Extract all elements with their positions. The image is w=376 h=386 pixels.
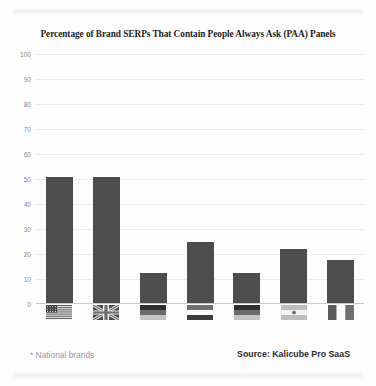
y-axis-tick-label: 20 — [24, 251, 31, 258]
plot-area: 1009080706050403020100 — [36, 54, 364, 304]
bar — [233, 273, 260, 304]
y-axis-tick-label: 0 — [27, 301, 31, 308]
flag-ar-icon — [281, 305, 307, 320]
y-axis-tick-label: 50 — [24, 176, 31, 183]
flag-nl-icon — [187, 305, 213, 320]
flag-de2-icon — [234, 305, 260, 320]
y-axis-tick-label: 30 — [24, 226, 31, 233]
y-axis-tick-label: 90 — [24, 76, 31, 83]
bar — [327, 260, 354, 304]
bar — [93, 177, 120, 305]
y-axis-tick-label: 10 — [24, 276, 31, 283]
bar — [280, 249, 307, 304]
bar — [187, 242, 214, 305]
y-axis-tick-label: 100 — [20, 51, 31, 58]
x-axis-flag-labels — [36, 305, 364, 321]
chart-title: Percentage of Brand SERPs That Contain P… — [0, 29, 376, 39]
bottom-edge-shadow — [14, 374, 362, 379]
source-label: Source: Kalicube Pro SaaS — [237, 349, 350, 359]
top-edge-shadow — [14, 10, 362, 14]
y-axis-tick-label: 70 — [24, 126, 31, 133]
flag-us-icon — [46, 305, 72, 320]
y-axis-tick-label: 40 — [24, 201, 31, 208]
footnote: * National brands — [30, 350, 94, 360]
y-axis-tick-label: 60 — [24, 151, 31, 158]
bar-series — [36, 54, 364, 304]
bar — [140, 273, 167, 304]
flag-de-icon — [140, 305, 166, 320]
chart-card: Percentage of Brand SERPs That Contain P… — [0, 0, 376, 386]
y-axis-tick-label: 80 — [24, 101, 31, 108]
flag-uk-icon — [93, 305, 119, 320]
x-axis-line — [36, 303, 364, 304]
bar — [46, 177, 73, 305]
flag-fr-icon — [328, 305, 354, 320]
